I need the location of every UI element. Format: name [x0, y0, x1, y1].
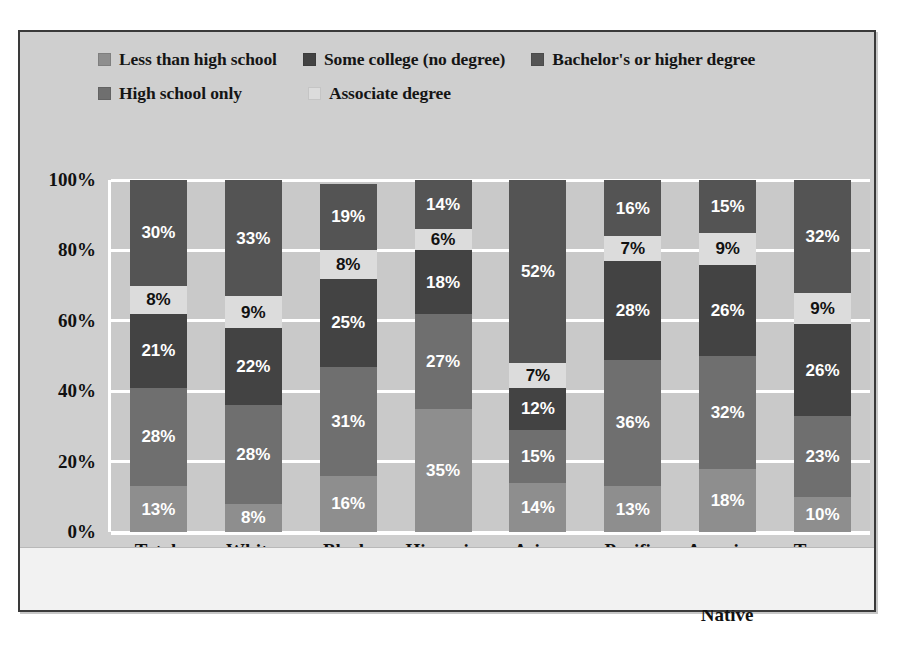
bar-segment-value-label: 16% [331, 495, 365, 512]
bar-segment[interactable]: 8% [130, 286, 187, 314]
bar-segment-value-label: 9% [715, 240, 740, 257]
bar-segment[interactable]: 9% [225, 296, 282, 328]
bar-segment[interactable]: 18% [415, 250, 472, 313]
bar-stack[interactable]: 15%9%26%32%18% [699, 180, 756, 532]
bar-segment[interactable]: 6% [415, 229, 472, 250]
bar-segment-value-label: 16% [616, 200, 650, 217]
bar-stack[interactable]: 14%6%18%27%35% [415, 180, 472, 532]
bar-segment-value-label: 15% [711, 198, 745, 215]
y-axis-tick-label: 0% [68, 521, 97, 543]
bar-segment[interactable]: 33% [225, 180, 282, 296]
legend-item-label: Some college (no degree) [324, 49, 505, 70]
bar-segment-value-label: 28% [141, 428, 175, 445]
bar-segment[interactable]: 25% [320, 279, 377, 367]
y-axis-tick-label: 20% [58, 451, 96, 473]
legend-item-label: Less than high school [119, 49, 277, 70]
bar-segment[interactable]: 14% [509, 483, 566, 532]
bar-segment-value-label: 26% [711, 302, 745, 319]
bar-segment-value-label: 18% [426, 274, 460, 291]
bar-segment[interactable]: 26% [794, 324, 851, 416]
bar-segment[interactable]: 26% [699, 265, 756, 357]
bar-segment-value-label: 8% [146, 291, 171, 308]
bar-segment-value-label: 36% [616, 414, 650, 431]
figure-footer-band [20, 547, 874, 610]
legend-row-2: High school onlyAssociate degree [20, 76, 874, 110]
bar-segment-value-label: 9% [810, 300, 835, 317]
bar-group: 30%8%21%28%13% [111, 180, 206, 532]
bar-segment[interactable]: 35% [415, 409, 472, 532]
bar-segment-value-label: 13% [616, 501, 650, 518]
bar-segment-value-label: 23% [806, 448, 840, 465]
bar-segment[interactable]: 32% [699, 356, 756, 469]
bar-segment[interactable]: 23% [794, 416, 851, 497]
bar-segment-value-label: 14% [521, 499, 555, 516]
bar-segment-value-label: 33% [236, 230, 270, 247]
bar-segment[interactable]: 15% [509, 430, 566, 483]
legend-swatch-associate-degree [308, 87, 321, 100]
bar-segment[interactable]: 8% [225, 504, 282, 532]
bar-stack[interactable]: 33%9%22%28%8% [225, 180, 282, 532]
bar-segment[interactable]: 31% [320, 367, 377, 476]
bar-segment[interactable]: 10% [794, 497, 851, 532]
bar-segment[interactable]: 14% [415, 180, 472, 229]
bar-segment-value-label: 31% [331, 413, 365, 430]
legend-item-label: High school only [119, 83, 242, 104]
legend-swatch-less-than-high-school [98, 53, 111, 66]
bar-segment-value-label: 13% [141, 501, 175, 518]
bar-segment[interactable]: 9% [794, 293, 851, 325]
y-axis-tick-label: 60% [58, 310, 96, 332]
y-axis: 0%20%40%60%80%100% [20, 180, 104, 532]
bar-segment[interactable]: 21% [130, 314, 187, 388]
bar-stack[interactable]: 19%8%25%31%16% [320, 180, 377, 532]
bar-stack[interactable]: 32%9%26%23%10% [794, 180, 851, 532]
bar-segment[interactable]: 32% [794, 180, 851, 293]
bar-group: 33%9%22%28%8% [206, 180, 301, 532]
legend-row-1: Less than high schoolSome college (no de… [20, 42, 874, 76]
bar-stack[interactable]: 30%8%21%28%13% [130, 180, 187, 532]
bar-segment-value-label: 9% [241, 304, 266, 321]
bar-segment[interactable]: 7% [604, 236, 661, 261]
bar-segment[interactable]: 52% [509, 180, 566, 363]
bar-stack[interactable]: 16%7%28%36%13% [604, 180, 661, 532]
bar-segment[interactable]: 27% [415, 314, 472, 409]
bar-segment[interactable]: 30% [130, 180, 187, 286]
bar-segment[interactable]: 18% [699, 469, 756, 532]
bar-group: 32%9%26%23%10% [775, 180, 870, 532]
bar-segment[interactable]: 36% [604, 360, 661, 487]
legend-item[interactable]: Less than high school [98, 49, 277, 70]
bar-segment-value-label: 10% [806, 506, 840, 523]
bar-segment[interactable]: 16% [604, 180, 661, 236]
legend-swatch-bachelors-or-higher [531, 53, 544, 66]
bar-stack[interactable]: 52%7%12%15%14% [509, 180, 566, 532]
legend-swatch-high-school-only [98, 87, 111, 100]
bar-segment[interactable]: 15% [699, 180, 756, 233]
legend-item[interactable]: High school only [98, 83, 242, 104]
bar-segment[interactable]: 12% [509, 388, 566, 430]
legend-item-label: Bachelor's or higher degree [552, 49, 755, 70]
bar-segment[interactable]: 8% [320, 250, 377, 278]
y-axis-tick-label: 80% [58, 239, 96, 261]
legend-item[interactable]: Bachelor's or higher degree [531, 49, 755, 70]
bar-segment[interactable]: 28% [225, 405, 282, 504]
bar-segment[interactable]: 16% [320, 476, 377, 532]
bar-segment[interactable]: 22% [225, 328, 282, 405]
bar-segment-value-label: 32% [711, 404, 745, 421]
bar-group: 14%6%18%27%35% [396, 180, 491, 532]
bar-series-container: 30%8%21%28%13%33%9%22%28%8%19%8%25%31%16… [111, 180, 870, 532]
bar-segment[interactable]: 13% [604, 486, 661, 532]
bar-segment-value-label: 7% [621, 240, 646, 257]
bar-segment[interactable]: 13% [130, 486, 187, 532]
bar-segment-value-label: 8% [241, 509, 266, 526]
bar-segment-value-label: 26% [806, 362, 840, 379]
bar-segment-value-label: 28% [616, 302, 650, 319]
bar-group: 15%9%26%32%18% [680, 180, 775, 532]
chart-legend: Less than high schoolSome college (no de… [20, 42, 874, 138]
legend-item[interactable]: Associate degree [308, 83, 451, 104]
bar-segment[interactable]: 9% [699, 233, 756, 265]
bar-segment[interactable]: 28% [604, 261, 661, 360]
bar-segment-value-label: 6% [431, 231, 456, 248]
bar-segment[interactable]: 7% [509, 363, 566, 388]
bar-segment[interactable]: 19% [320, 184, 377, 251]
legend-item[interactable]: Some college (no degree) [303, 49, 505, 70]
bar-segment[interactable]: 28% [130, 388, 187, 487]
